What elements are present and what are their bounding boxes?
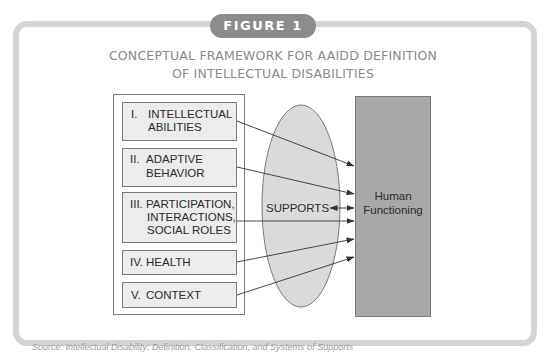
dimension-box-5: V. CONTEXT (123, 283, 237, 308)
dimension-label-line: SOCIAL ROLES (147, 224, 231, 236)
dimension-label-line: HEALTH (146, 256, 191, 268)
dimension-label-line: ADAPTIVE (146, 153, 203, 165)
human-functioning-label-line-2: Functioning (363, 204, 422, 216)
dimension-box-2: II. ADAPTIVE BEHAVIOR (123, 149, 237, 187)
dimension-numeral: II. (130, 153, 140, 165)
dimension-label-line: INTELLECTUAL (148, 108, 233, 120)
dimension-numeral: IV. (130, 256, 143, 268)
dimension-label-line: ABILITIES (148, 121, 202, 133)
dimension-numeral: III. (130, 198, 143, 210)
dimension-label-line: INTERACTIONS, (147, 211, 236, 223)
dimension-numeral: I. (131, 108, 137, 120)
dimension-numeral: V. (131, 289, 141, 301)
dimension-label-line: BEHAVIOR (146, 167, 205, 179)
dimension-box-4: IV. HEALTH (123, 251, 237, 275)
human-functioning-label-line-1: Human (374, 190, 411, 202)
supports-label: SUPPORTS (266, 202, 329, 214)
dimension-label-line: PARTICIPATION, (146, 198, 235, 210)
dimension-label-line: CONTEXT (146, 289, 201, 301)
figure-source-caption: Source: Intellectual Disability: Definit… (32, 342, 353, 352)
dimension-box-1: I. INTELLECTUAL ABILITIES (123, 103, 237, 141)
dimension-box-3: III. PARTICIPATION, INTERACTIONS, SOCIAL… (123, 193, 237, 243)
